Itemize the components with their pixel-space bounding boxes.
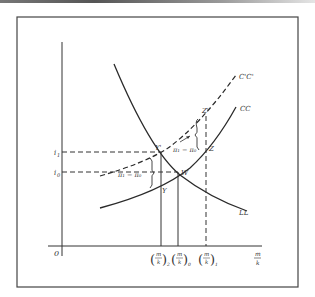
cc-label: CC: [240, 105, 251, 113]
point-z-label: Z: [208, 145, 214, 153]
point-y-label: Y: [162, 187, 168, 195]
x-axis-label: m k: [254, 250, 261, 266]
left-brace: [150, 158, 154, 188]
point-y-prime-label: Y': [155, 144, 162, 152]
svg-text:k: k: [157, 259, 161, 265]
svg-text:m: m: [255, 250, 261, 257]
svg-text:m: m: [204, 251, 209, 257]
cc-curve: [100, 107, 236, 208]
m-k-1-label: ( m k ) 1: [198, 251, 218, 267]
svg-text:1: 1: [57, 152, 60, 158]
arrow-head-icon: [186, 136, 190, 139]
svg-text:k: k: [256, 259, 260, 266]
svg-text:m: m: [156, 251, 161, 257]
pi-diff-label-left: π₁ − π₀: [117, 171, 142, 179]
diagram-canvas: 0 m k LL CC C'C' i 1 i 0 π₁ − π₀ π₁ − π₀…: [0, 0, 315, 297]
svg-text:i: i: [54, 169, 56, 177]
svg-text:k: k: [178, 259, 182, 265]
c-prime-c-prime-label: C'C': [239, 73, 254, 81]
point-w-label: W: [181, 169, 189, 177]
svg-text:m: m: [177, 251, 182, 257]
svg-text:i: i: [54, 149, 56, 157]
pi-diff-label-right: π₁ − π₀: [172, 146, 197, 154]
point-z-prime-label: Z': [201, 107, 209, 115]
origin-label: 0: [54, 249, 59, 258]
svg-text:(: (: [198, 252, 203, 267]
m-k-2-label: ( m k ) 2: [150, 251, 170, 267]
m-k-0-label: ( m k ) 0: [171, 251, 191, 267]
svg-text:(: (: [150, 252, 155, 267]
svg-text:1: 1: [215, 262, 218, 267]
svg-text:0: 0: [188, 262, 191, 267]
svg-text:0: 0: [57, 172, 61, 178]
ll-label: LL: [238, 209, 249, 217]
i1-label: i 1: [54, 149, 60, 158]
svg-text:k: k: [205, 259, 209, 265]
svg-text:(: (: [171, 252, 176, 267]
svg-text:2: 2: [166, 262, 170, 267]
i0-label: i 0: [54, 169, 61, 178]
c-prime-c-prime-curve: [100, 75, 236, 176]
